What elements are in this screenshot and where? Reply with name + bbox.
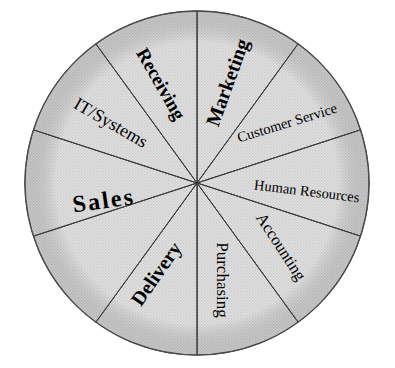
sector-label-purchasing: Purchasing: [213, 242, 232, 318]
business-function-wheel-diagram: MarketingCustomer ServiceHuman Resources…: [0, 0, 395, 368]
wheel-canvas: MarketingCustomer ServiceHuman Resources…: [0, 0, 395, 368]
